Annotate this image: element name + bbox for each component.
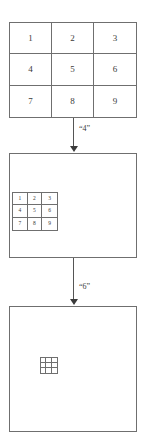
grid-cell: 5 [52,54,94,85]
diagram-canvas: 1 2 3 4 5 6 7 8 9 “4” 1 2 3 4 5 6 7 8 9 … [0,0,150,445]
grid-cell: 9 [42,218,57,230]
grid-cell: 3 [94,23,136,54]
middle-numbered-grid: 1 2 3 4 5 6 7 8 9 [12,192,58,231]
bottom-outer-box [9,306,137,432]
grid-cell: 1 [10,23,52,54]
grid-cell: 6 [94,54,136,85]
arrow-label-bottom: “6” [79,283,90,291]
grid-cell: 7 [13,218,28,230]
grid-cell: 3 [42,193,57,205]
grid-cell: 2 [28,193,43,205]
grid-cell: 1 [13,193,28,205]
arrow-head-icon [70,146,78,152]
grid-cell: 4 [13,205,28,217]
grid-cell [52,368,57,373]
arrow-shaft [73,118,74,147]
grid-cell: 2 [52,23,94,54]
grid-cell: 8 [52,86,94,117]
grid-cell: 4 [10,54,52,85]
arrow-label-top: “4” [79,125,90,133]
grid-cell: 8 [28,218,43,230]
grid-cell: 7 [10,86,52,117]
grid-cell: 5 [28,205,43,217]
grid-cell: 9 [94,86,136,117]
arrow-shaft [73,258,74,300]
bottom-blank-grid [40,357,58,374]
arrow-head-icon [70,299,78,305]
grid-cell: 6 [42,205,57,217]
top-numbered-grid: 1 2 3 4 5 6 7 8 9 [9,22,137,118]
